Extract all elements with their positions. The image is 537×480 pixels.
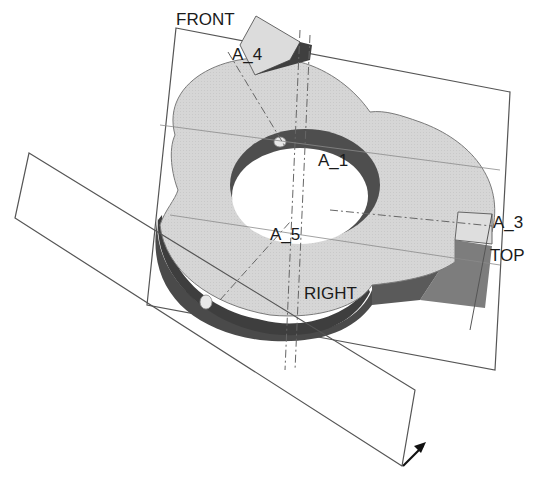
label-a1[interactable]: A_1 (318, 152, 348, 169)
model-scene[interactable] (0, 0, 537, 480)
label-a3[interactable]: A_3 (493, 214, 523, 231)
coordinate-system-arrow-icon (403, 442, 426, 466)
label-front[interactable]: FRONT (176, 11, 235, 28)
label-a5[interactable]: A_5 (270, 226, 300, 243)
label-right[interactable]: RIGHT (304, 285, 357, 302)
cad-viewport[interactable]: FRONT TOP RIGHT A_1 A_3 A_4 A_5 (0, 0, 537, 480)
label-a4[interactable]: A_4 (232, 46, 262, 63)
label-top[interactable]: TOP (490, 247, 525, 264)
